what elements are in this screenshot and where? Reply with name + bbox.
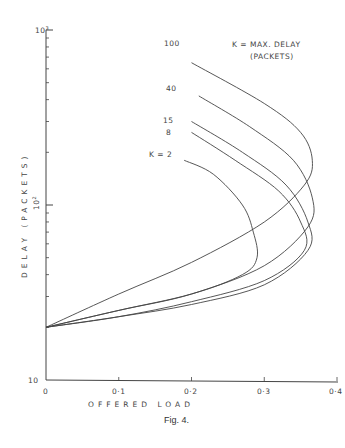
curve-label-40: 40 bbox=[166, 84, 177, 93]
curve-k2 bbox=[46, 160, 258, 327]
x-tick-label-0.1: 0·1 bbox=[112, 387, 125, 396]
curve-label-8: 8 bbox=[166, 128, 171, 137]
curve-40 bbox=[46, 96, 314, 327]
legend-note-line1: K = MAX. DELAY bbox=[232, 40, 300, 49]
y-tick-label-1000: 103 bbox=[35, 25, 49, 35]
x-tick-label-0.4: 0·4 bbox=[329, 387, 342, 396]
y-tick-label-10: 10 bbox=[28, 376, 39, 385]
figure-caption: Fig. 4. bbox=[164, 415, 189, 425]
x-tick-label-0.2: 0·2 bbox=[184, 387, 197, 396]
curves bbox=[46, 63, 314, 328]
y-tick-label-100: 102 bbox=[31, 196, 41, 210]
y-axis-label: DELAY (PACKETS) bbox=[20, 152, 29, 278]
curve-label-15: 15 bbox=[163, 116, 174, 125]
curve-label-100: 100 bbox=[164, 39, 180, 48]
x-tick-label-0: 0 bbox=[43, 387, 48, 396]
curve-15 bbox=[46, 122, 312, 328]
curve-100 bbox=[46, 63, 312, 328]
x-axis-label: OFFERED LOAD bbox=[88, 400, 194, 409]
x-axis bbox=[46, 380, 338, 382]
curve-label-k2: K = 2 bbox=[149, 150, 172, 159]
x-tick-label-0.3: 0·3 bbox=[257, 387, 270, 396]
chart: 10 102 103 0 0·1 0·2 0·3 0·4 OFFERED LOA… bbox=[0, 0, 345, 448]
legend-note-line2: (PACKETS) bbox=[250, 52, 294, 61]
